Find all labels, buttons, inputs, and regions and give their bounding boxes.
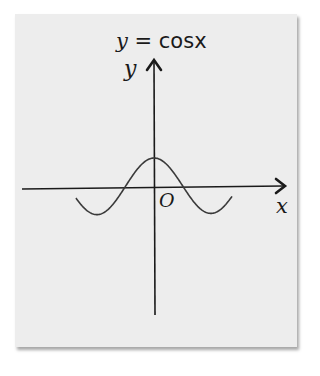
origin-label: O: [159, 191, 175, 210]
cosine-graph: [0, 0, 320, 376]
graph-title: y = cosx: [116, 31, 207, 52]
y-axis-label: y: [124, 58, 136, 80]
x-axis-label: x: [276, 196, 288, 217]
x-axis: [22, 179, 285, 193]
